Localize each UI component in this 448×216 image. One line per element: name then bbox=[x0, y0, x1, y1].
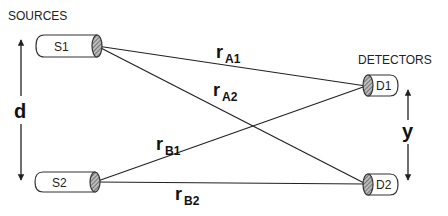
path-rB2 bbox=[95, 182, 366, 184]
sources-heading: SOURCES bbox=[8, 9, 67, 23]
detectors-heading: DETECTORS bbox=[358, 53, 432, 67]
dimension-y: y bbox=[402, 90, 414, 180]
source-s2-aperture-icon bbox=[90, 172, 100, 192]
label-rB2-sub: B2 bbox=[184, 194, 200, 208]
path-rA2 bbox=[97, 46, 366, 184]
label-rB1: r B1 bbox=[156, 134, 181, 158]
dimension-d: d bbox=[14, 40, 26, 180]
source-s1-aperture-icon bbox=[92, 35, 102, 57]
detector-d2: D2 bbox=[363, 174, 398, 195]
detector-d2-label: D2 bbox=[376, 178, 392, 192]
detector-d1-aperture-icon bbox=[363, 75, 373, 96]
detector-d2-aperture-icon bbox=[363, 174, 373, 195]
label-rB2-main: r bbox=[175, 184, 182, 204]
label-rB2: r B2 bbox=[175, 184, 200, 208]
label-rB1-sub: B1 bbox=[165, 144, 181, 158]
label-rA2: r A2 bbox=[213, 80, 238, 104]
label-rA1-sub: A1 bbox=[225, 52, 241, 66]
label-rA2-sub: A2 bbox=[222, 90, 238, 104]
label-rA1-main: r bbox=[216, 42, 223, 62]
source-s2: S2 bbox=[35, 172, 100, 192]
dimension-d-label: d bbox=[14, 100, 26, 122]
beam-paths bbox=[95, 46, 366, 184]
label-rA1: r A1 bbox=[216, 42, 241, 66]
dimension-y-label: y bbox=[402, 120, 414, 142]
label-rB1-main: r bbox=[156, 134, 163, 154]
source-s1: S1 bbox=[36, 35, 102, 57]
detector-d1-label: D1 bbox=[376, 79, 392, 93]
detector-d1: D1 bbox=[363, 75, 398, 96]
intensity-interferometer-diagram: SOURCES DETECTORS S1 S2 D1 D2 r A1 r A2 bbox=[0, 0, 448, 216]
label-rA2-main: r bbox=[213, 80, 220, 100]
source-s2-label: S2 bbox=[52, 176, 67, 190]
source-s1-label: S1 bbox=[54, 40, 69, 54]
